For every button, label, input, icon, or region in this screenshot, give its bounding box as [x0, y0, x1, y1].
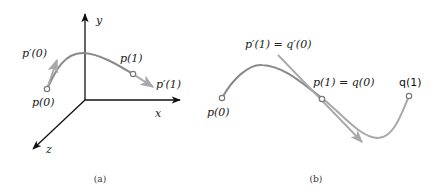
label-tangent-eq: p′(1) = q′(0)	[245, 38, 311, 51]
point-p1-q0	[319, 96, 324, 101]
label-p1: p(1)	[120, 52, 143, 65]
point-p1	[130, 71, 135, 76]
label-p1-eq-q0: p(1) = q(0)	[313, 76, 374, 89]
label-q1: q(1)	[399, 76, 422, 89]
x-axis-label: x	[155, 107, 162, 120]
figure: y x z p′(0) p(0) p(1) p′(1) (a) p′(1) = …	[0, 0, 440, 192]
tangent-p0-arrow	[47, 60, 57, 89]
z-axis-label: z	[45, 143, 52, 156]
label-p0: p(0)	[207, 106, 230, 119]
caption-b: (b)	[310, 174, 323, 184]
point-p0	[44, 86, 49, 91]
label-p0: p(0)	[32, 96, 55, 109]
label-dp0: p′(0)	[22, 47, 47, 60]
curve-q	[322, 96, 409, 138]
point-q1	[406, 93, 411, 98]
panel-b: p′(1) = q′(0) p(1) = q(0) q(1) p(0) (b)	[207, 38, 422, 184]
y-axis-label: y	[95, 14, 103, 27]
tangent-p1-arrow	[133, 74, 153, 87]
curve-p	[222, 65, 322, 98]
caption-a: (a)	[94, 174, 106, 184]
label-dp1: p′(1)	[156, 78, 181, 91]
panel-a: y x z p′(0) p(0) p(1) p′(1) (a)	[22, 14, 181, 184]
point-p0	[219, 95, 224, 100]
